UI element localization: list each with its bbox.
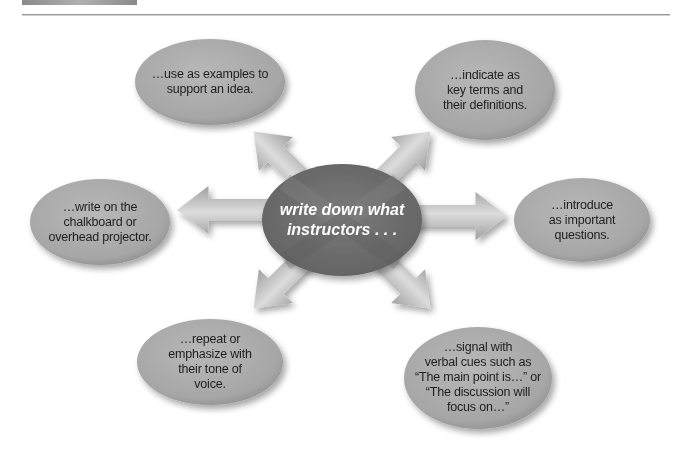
text-line: …signal with (408, 340, 548, 355)
text-line: …use as examples to (140, 67, 280, 82)
text-line: “The main point is…” or (408, 370, 548, 385)
text-line: support an idea. (140, 82, 280, 97)
text-line: emphasize with (145, 347, 275, 362)
text-line: …indicate as (420, 68, 550, 83)
text-line: “The discussion will (408, 385, 548, 400)
text-line: focus on…” (408, 400, 548, 415)
text-line: …write on the (33, 200, 167, 215)
text-line: chalkboard or (33, 215, 167, 230)
text-line: their tone of (145, 362, 275, 377)
bubble-text-left: …write on the chalkboard or overhead pro… (33, 200, 167, 245)
center-label: write down what instructors . . . (262, 200, 422, 240)
bubble-text-top-left: …use as examples to support an idea. (140, 67, 280, 97)
center-line-2: instructors . . . (262, 220, 422, 240)
text-line: voice. (145, 377, 275, 392)
text-line: …introduce (520, 198, 644, 213)
text-line: questions. (520, 228, 644, 243)
bubble-text-top-right: …indicate as key terms and their definit… (420, 68, 550, 113)
text-line: their definitions. (420, 98, 550, 113)
bubble-text-bottom-right: …signal with verbal cues such as “The ma… (408, 340, 548, 415)
text-line: verbal cues such as (408, 355, 548, 370)
bubble-text-bottom-left: …repeat or emphasize with their tone of … (145, 332, 275, 392)
bubble-text-right: …introduce as important questions. (520, 198, 644, 243)
text-line: key terms and (420, 83, 550, 98)
center-line-1: write down what (262, 200, 422, 220)
text-line: as important (520, 213, 644, 228)
text-line: …repeat or (145, 332, 275, 347)
text-line: overhead projector. (33, 230, 167, 245)
